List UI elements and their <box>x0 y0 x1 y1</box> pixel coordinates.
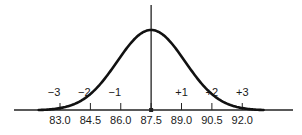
x-tick-label: 86.0 <box>110 114 131 126</box>
sigma-label: +3 <box>236 86 249 98</box>
sigma-label: +1 <box>175 86 188 98</box>
x-tick-label: 87.5 <box>140 114 161 126</box>
sigma-label: −3 <box>48 86 61 98</box>
sigma-labels: −3−2−1+1+2+3 <box>48 86 249 98</box>
sigma-label: −1 <box>108 86 121 98</box>
x-tick-label: 84.5 <box>80 114 101 126</box>
normal-distribution-chart: 83.084.586.087.589.090.592.0 −3−2−1+1+2+… <box>0 0 302 135</box>
x-tick-label: 90.5 <box>201 114 222 126</box>
x-tick-labels: 83.084.586.087.589.090.592.0 <box>49 114 253 126</box>
x-tick-label: 83.0 <box>49 114 70 126</box>
x-tick-label: 89.0 <box>171 114 192 126</box>
mean-marker <box>149 108 153 112</box>
x-tick-label: 92.0 <box>232 114 253 126</box>
